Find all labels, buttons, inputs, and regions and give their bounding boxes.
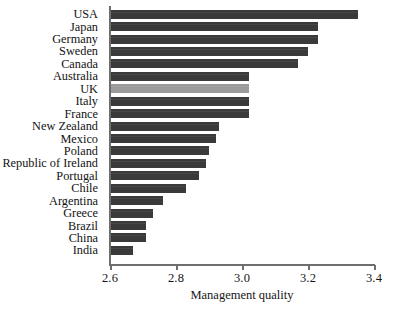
bar [110, 233, 146, 242]
bar [110, 22, 318, 31]
bar-row: Italy [0, 95, 394, 107]
category-label: India [0, 244, 98, 256]
bar-row: Argentina [0, 194, 394, 206]
bar-row: Australia [0, 70, 394, 82]
bar-row: USA [0, 8, 394, 20]
bar [110, 159, 206, 168]
bar-row: Greece [0, 207, 394, 219]
bar-row: Mexico [0, 132, 394, 144]
x-tick-label: 3.0 [222, 271, 262, 286]
bar [110, 184, 186, 193]
x-tick-mark [308, 265, 310, 270]
bar-row: Portugal [0, 170, 394, 182]
x-tick-label: 2.6 [90, 271, 130, 286]
x-tick-mark [176, 265, 178, 270]
x-tick-mark [374, 265, 376, 270]
x-axis-title: Management quality [109, 288, 375, 303]
bar [110, 109, 249, 118]
x-tick-mark [110, 265, 112, 270]
bar [110, 196, 163, 205]
bar [110, 97, 249, 106]
bar [110, 146, 209, 155]
plot-area: USAJapanGermanySwedenCanadaAustraliaUKIt… [0, 0, 394, 318]
management-quality-bar-chart: USAJapanGermanySwedenCanadaAustraliaUKIt… [0, 0, 394, 318]
bar-highlighted [110, 84, 249, 93]
bar [110, 246, 133, 255]
bar-row: Sweden [0, 45, 394, 57]
bar [110, 171, 199, 180]
x-tick-label: 3.4 [354, 271, 394, 286]
x-tick-label: 3.2 [288, 271, 328, 286]
bar [110, 209, 153, 218]
x-tick-label: 2.8 [156, 271, 196, 286]
bar-row: India [0, 244, 394, 256]
bar-row: UK [0, 83, 394, 95]
bar [110, 35, 318, 44]
bar [110, 47, 308, 56]
bar [110, 122, 219, 131]
bar [110, 59, 298, 68]
bar-row: China [0, 232, 394, 244]
bar [110, 221, 146, 230]
bar [110, 134, 216, 143]
bar [110, 10, 358, 19]
y-axis-line [109, 6, 111, 265]
bar [110, 72, 249, 81]
x-tick-mark [242, 265, 244, 270]
bar-row: Brazil [0, 219, 394, 231]
bar-row: New Zealand [0, 120, 394, 132]
